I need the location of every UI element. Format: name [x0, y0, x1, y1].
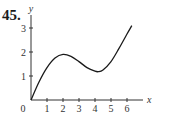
- x-tick-label: 5: [109, 103, 114, 114]
- y-tick-label: 3: [21, 23, 26, 34]
- function-curve: [31, 26, 132, 100]
- x-tick-label: 1: [45, 103, 50, 114]
- x-tick-label: 2: [61, 103, 66, 114]
- function-graph: 1234561230xy: [0, 0, 174, 117]
- x-tick-label: 3: [77, 103, 82, 114]
- y-axis-label: y: [28, 3, 34, 14]
- y-tick-label: 2: [21, 47, 26, 58]
- y-tick-label: 1: [21, 71, 26, 82]
- x-axis-label: x: [146, 94, 152, 105]
- x-tick-label: 4: [93, 103, 98, 114]
- origin-label: 0: [21, 103, 26, 114]
- x-tick-label: 6: [125, 103, 130, 114]
